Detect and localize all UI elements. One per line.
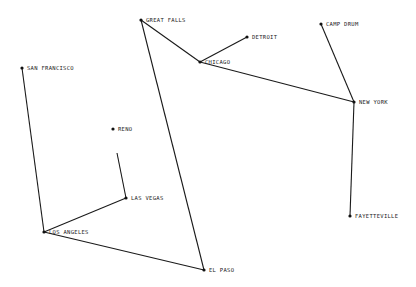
edge-camp_drum-new_york: [321, 24, 354, 102]
node-label: NEW YORK: [359, 99, 388, 105]
node-dot-icon: [202, 268, 205, 271]
edge-san_francisco-los_angeles: [22, 68, 44, 232]
edge-new_york-fayetteville: [350, 102, 354, 216]
node-dot-icon: [20, 66, 23, 69]
node-dot-icon: [198, 60, 201, 63]
node-el-paso: EL PASO: [202, 267, 234, 273]
node-dot-icon: [124, 196, 127, 199]
node-great-falls: GREAT FALLS: [139, 17, 185, 23]
edge-chicago-new_york: [200, 62, 354, 102]
edge-los_angeles-el_paso: [44, 232, 204, 270]
node-label: DETROIT: [252, 34, 278, 40]
node-las-vegas: LAS VEGAS: [124, 195, 163, 201]
node-reno: RENO: [111, 126, 132, 132]
node-label: LOS ANGELES: [49, 229, 89, 235]
nodes-layer: GREAT FALLSDETROITCHICAGOCAMP DRUMNEW YO…: [20, 17, 398, 273]
node-dot-icon: [352, 100, 355, 103]
node-label: LAS VEGAS: [131, 195, 164, 201]
node-san-francisco: SAN FRANCISCO: [20, 65, 74, 71]
node-label: FAYETTEVILLE: [355, 213, 398, 219]
node-label: SAN FRANCISCO: [27, 65, 74, 71]
node-dot-icon: [319, 22, 322, 25]
node-los-angeles: LOS ANGELES: [42, 229, 88, 235]
node-dot-icon: [42, 230, 45, 233]
node-new-york: NEW YORK: [352, 99, 388, 105]
stub-edge-las_vegas: [117, 153, 126, 198]
node-camp-drum: CAMP DRUM: [319, 21, 358, 27]
node-dot-icon: [139, 18, 142, 21]
node-dot-icon: [111, 127, 114, 130]
edge-los_angeles-las_vegas: [44, 198, 126, 232]
node-label: CAMP DRUM: [326, 21, 359, 27]
node-label: GREAT FALLS: [146, 17, 186, 23]
node-detroit: DETROIT: [245, 34, 277, 40]
node-dot-icon: [245, 35, 248, 38]
network-diagram: GREAT FALLSDETROITCHICAGOCAMP DRUMNEW YO…: [0, 0, 416, 287]
node-label: RENO: [118, 126, 132, 132]
node-dot-icon: [348, 214, 351, 217]
node-label: CHICAGO: [205, 59, 230, 65]
node-label: EL PASO: [209, 267, 234, 273]
node-fayetteville: FAYETTEVILLE: [348, 213, 398, 219]
